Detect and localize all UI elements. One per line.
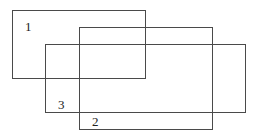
label-rectangle-2: 2 [92,115,99,128]
label-rectangle-3: 3 [58,98,65,111]
label-rectangle-1: 1 [25,20,32,33]
rectangle-3 [45,44,246,113]
